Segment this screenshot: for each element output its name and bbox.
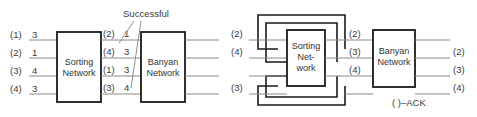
- right-panel: (2) (4) (3) Sorting Net- work (2) (3): [231, 15, 465, 108]
- left-input-value-4: 3: [32, 83, 37, 94]
- right-sorting-network-label-line3: work: [295, 63, 316, 73]
- left-middle-value-3: 3: [124, 64, 129, 75]
- left-middle-port-1: (2): [103, 28, 115, 39]
- left-middle-port-4: (3): [103, 82, 115, 93]
- right-input-port-2: (4): [231, 46, 243, 57]
- right-middle-port-1: (2): [349, 28, 361, 39]
- right-output-labels: (2) (3) (4): [453, 46, 465, 93]
- right-banyan-network-label-line1: Banyan: [379, 46, 410, 56]
- left-panel: (1) 3 (2) 1 (3) 4 (4) 3 Sorting Network: [10, 8, 219, 102]
- right-sorting-network-label-line1: Sorting: [292, 41, 321, 51]
- left-output-wires: [185, 40, 219, 94]
- left-middle-port-2: (4): [103, 46, 115, 57]
- figure-root: (1) 3 (2) 1 (3) 4 (4) 3 Sorting Network: [0, 0, 477, 117]
- left-banyan-network-label-line1: Banyan: [148, 57, 179, 67]
- right-output-port-2: (2): [453, 46, 465, 57]
- left-input-port-1: (1): [10, 29, 22, 40]
- left-banyan-network-box: [141, 32, 185, 102]
- right-banyan-network-label-line2: Network: [377, 57, 411, 67]
- right-middle-port-2: (3): [349, 46, 361, 57]
- left-input-port-2: (2): [10, 47, 22, 58]
- right-input-port-4: (3): [231, 82, 243, 93]
- right-output-port-4: (4): [453, 82, 465, 93]
- right-output-wires: [415, 40, 450, 94]
- left-input-labels: (1) 3 (2) 1 (3) 4 (4) 3: [10, 29, 37, 94]
- left-banyan-network-label-line2: Network: [146, 68, 180, 78]
- right-input-port-1: (2): [231, 28, 243, 39]
- right-middle-labels: (2) (3) (4): [349, 28, 361, 75]
- left-input-value-1: 3: [32, 29, 37, 40]
- right-output-port-3: (3): [453, 64, 465, 75]
- left-input-port-3: (3): [10, 65, 22, 76]
- right-middle-port-3: (4): [349, 64, 361, 75]
- right-outer-feedback-loop-bottom: [258, 86, 345, 105]
- left-middle-value-2: 3: [124, 46, 129, 57]
- diagram-canvas: (1) 3 (2) 1 (3) 4 (4) 3 Sorting Network: [0, 0, 477, 117]
- left-sorting-network-box: [57, 32, 101, 102]
- left-sorting-network-label-line2: Network: [62, 68, 96, 78]
- left-input-value-2: 1: [32, 47, 37, 58]
- left-input-value-3: 4: [32, 65, 37, 76]
- left-middle-value-4: 4: [124, 82, 129, 93]
- left-callout-leader-lines: [119, 21, 141, 88]
- right-input-labels: (2) (4) (3): [231, 28, 243, 93]
- left-middle-port-3: (1): [103, 64, 115, 75]
- left-middle-labels: (2) 1 (4) 3 (1) 3 (3) 4: [103, 28, 129, 93]
- right-sorting-network-label-line2: Net-: [297, 52, 314, 62]
- left-input-port-4: (4): [10, 83, 22, 94]
- left-sorting-network-label-line1: Sorting: [65, 57, 94, 67]
- right-ack-caption: ( )–ACK: [392, 97, 426, 108]
- left-successful-callout: Successful: [123, 8, 169, 19]
